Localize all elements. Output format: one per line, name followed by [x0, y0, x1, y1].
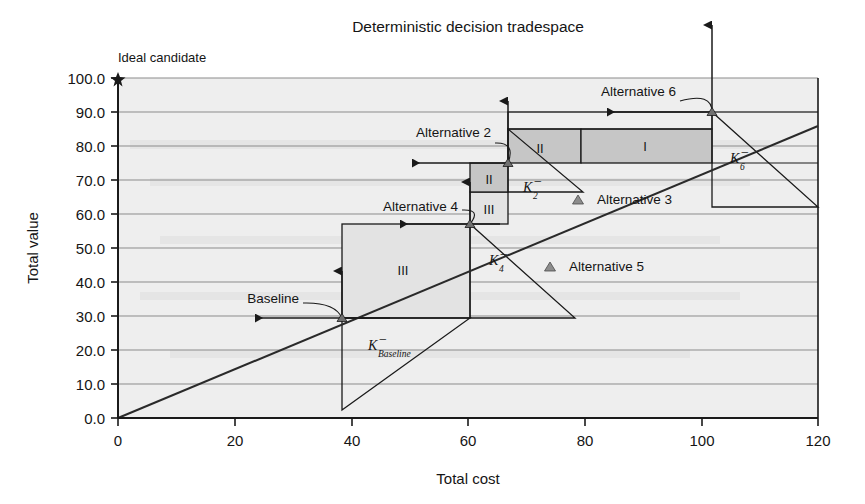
y-tick-label: 100.0 [67, 70, 105, 87]
region-label-ii-small: II [485, 172, 492, 187]
baseline-label: Baseline [247, 291, 299, 306]
alternative-2-label: Alternative 2 [416, 125, 491, 140]
region-label-iii-large: III [398, 263, 409, 278]
x-axis-label: Total cost [436, 470, 500, 487]
alternative-5-label: Alternative 5 [569, 259, 644, 274]
k-4-superscript: − [499, 247, 508, 262]
x-tick-label: 100 [689, 432, 714, 449]
k-6-superscript: − [740, 145, 749, 160]
x-tick-label: 120 [805, 432, 830, 449]
x-tick-label: 40 [344, 432, 361, 449]
chart-title: Deterministic decision tradespace [352, 18, 584, 35]
y-tick-label: 40.0 [76, 274, 105, 291]
y-tick-label: 50.0 [76, 240, 105, 257]
y-tick-label: 80.0 [76, 138, 105, 155]
y-tick-label: 70.0 [76, 172, 105, 189]
k-baseline-symbol: K [367, 338, 378, 353]
y-tick-label: 90.0 [76, 104, 105, 121]
y-tick-label: 60.0 [76, 206, 105, 223]
x-tick-label: 0 [114, 432, 122, 449]
alternative-4-label: Alternative 4 [383, 199, 459, 214]
region-label-i: I [643, 139, 647, 154]
region-box-ii-alt2 [508, 129, 581, 163]
k-2-subscript: 2 [533, 191, 538, 201]
x-tick-label: 60 [460, 432, 477, 449]
region-label-iii-small: III [484, 202, 495, 217]
k-6-symbol: K [729, 151, 740, 166]
region-label-ii: II [536, 141, 543, 156]
alternative-6-label: Alternative 6 [601, 84, 676, 99]
y-axis-label: Total value [24, 212, 41, 284]
chart-figure: 100.0 90.0 80.0 70.0 60.0 50.0 40.0 30.0… [0, 0, 865, 504]
tradespace-chart: 100.0 90.0 80.0 70.0 60.0 50.0 40.0 30.0… [0, 0, 865, 504]
k-2-symbol: K [522, 180, 533, 195]
k-4-symbol: K [488, 253, 499, 268]
y-tick-label: 0.0 [84, 410, 105, 427]
k-2-superscript: − [533, 174, 542, 189]
x-tick-label: 20 [227, 432, 244, 449]
y-tick-label: 10.0 [76, 376, 105, 393]
y-tick-label: 30.0 [76, 308, 105, 325]
y-tick-label: 20.0 [76, 342, 105, 359]
alternative-3-label: Alternative 3 [597, 192, 672, 207]
k-4-subscript: 4 [499, 264, 504, 274]
k-6-subscript: 6 [740, 162, 745, 172]
k-baseline-subscript: Baseline [378, 349, 411, 359]
x-tick-label: 80 [577, 432, 594, 449]
k-baseline-superscript: − [378, 332, 387, 347]
ideal-candidate-label: Ideal candidate [118, 50, 206, 65]
